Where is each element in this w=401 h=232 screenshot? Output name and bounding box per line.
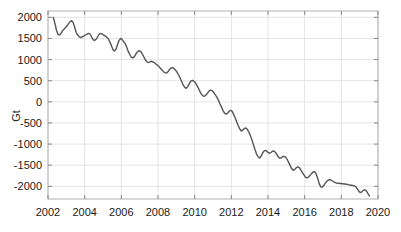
chart-container: 2002200420062008201020122014201620182020…	[0, 0, 401, 232]
y-tick-label: 1500	[18, 32, 42, 44]
x-tick-label: 2014	[256, 206, 280, 218]
x-tick-label: 2010	[182, 206, 206, 218]
y-tick-label: -1500	[14, 159, 42, 171]
x-tick-label: 2006	[109, 206, 133, 218]
x-tick-label: 2012	[219, 206, 243, 218]
y-axis-title-text: Gt	[10, 110, 22, 122]
line-chart: 2002200420062008201020122014201620182020…	[0, 0, 401, 232]
x-tick-label: 2018	[329, 206, 353, 218]
y-tick-label: 2000	[18, 11, 42, 23]
x-tick-label: 2004	[72, 206, 96, 218]
y-axis-title: Gt	[10, 110, 22, 122]
y-tick-label: 500	[24, 75, 42, 87]
y-tick-label: -500	[20, 117, 42, 129]
y-tick-label: -2000	[14, 180, 42, 192]
x-tick-label: 2016	[292, 206, 316, 218]
y-tick-label: 0	[36, 96, 42, 108]
x-tick-label: 2020	[366, 206, 390, 218]
x-tick-label: 2002	[36, 206, 60, 218]
y-tick-label: -1000	[14, 138, 42, 150]
y-tick-label: 1000	[18, 54, 42, 66]
x-tick-label: 2008	[146, 206, 170, 218]
